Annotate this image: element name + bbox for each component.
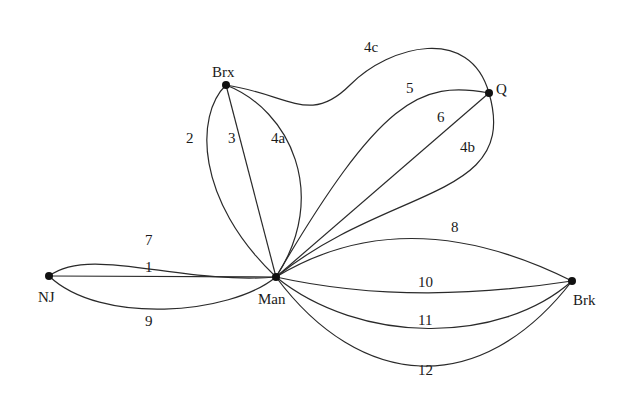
node-label-q: Q (496, 81, 507, 97)
node-brx (222, 81, 230, 89)
edge-label-4b: 4b (460, 139, 475, 155)
edge-label-10: 10 (418, 274, 433, 290)
node-q (485, 89, 493, 97)
graph-canvas: NJ Man Brx Q Brk 7 1 9 2 3 4a 4c 5 6 4b … (0, 0, 620, 414)
edge-9 (49, 276, 276, 309)
edge-4c (226, 48, 489, 105)
node-man (272, 273, 280, 281)
edge-label-1: 1 (145, 259, 153, 275)
graph-diagram: NJ Man Brx Q Brk 7 1 9 2 3 4a 4c 5 6 4b … (0, 0, 620, 414)
edge-4a (226, 85, 301, 277)
edge-1 (49, 276, 276, 277)
edge-label-4a: 4a (271, 130, 286, 146)
node-brk (568, 277, 576, 285)
node-nj (45, 272, 53, 280)
node-label-man: Man (258, 291, 286, 307)
edge-2 (207, 85, 276, 277)
node-label-brk: Brk (573, 292, 596, 308)
edge-label-12: 12 (418, 362, 433, 378)
edge-label-4c: 4c (364, 39, 379, 55)
edge-label-11: 11 (418, 312, 432, 328)
edge-label-5: 5 (406, 80, 414, 96)
node-label-brx: Brx (212, 64, 235, 80)
edge-label-8: 8 (451, 219, 459, 235)
edge-label-3: 3 (228, 130, 236, 146)
edge-6 (276, 93, 489, 277)
edge-label-6: 6 (437, 109, 445, 125)
edge-label-2: 2 (186, 130, 194, 146)
node-label-nj: NJ (38, 289, 55, 305)
edge-label-9: 9 (145, 313, 153, 329)
edge-label-7: 7 (145, 232, 153, 248)
